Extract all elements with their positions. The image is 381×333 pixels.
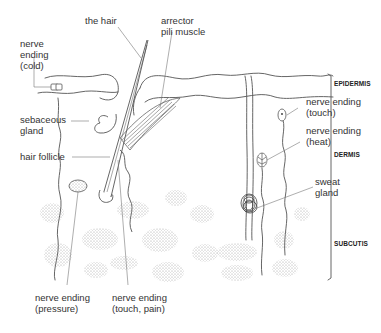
hair-bulb <box>99 190 113 202</box>
sweat-duct-right <box>251 76 253 240</box>
label-touch-line2: (touch) <box>306 108 336 119</box>
label-cold-line2: ending <box>20 50 49 61</box>
label-cold-line3: (cold) <box>20 61 44 72</box>
label-sebaceous-line2: gland <box>20 126 43 137</box>
label-hair-follicle: hair follicle <box>20 152 65 163</box>
layer-label-dermis: DERMIS <box>334 151 360 158</box>
label-touch-pain-line2: (touch, pain) <box>112 304 165 315</box>
label-touch-line1: nerve ending <box>306 97 361 108</box>
leader-pressure <box>67 192 78 285</box>
heat-receptor-shape <box>257 153 267 167</box>
label-sebaceous-line1: sebaceous <box>20 115 66 126</box>
label-sweat-line2: gland <box>315 188 338 199</box>
fat-lobules <box>40 190 310 282</box>
arrector-muscle-outline <box>120 98 180 150</box>
heat-nerve-fiber <box>261 168 263 275</box>
sweat-gland-coil <box>241 194 257 213</box>
touch-pain-nerve-fiber <box>120 150 132 232</box>
epidermis-base-left <box>38 91 118 93</box>
layer-label-subcutis: SUBCUTIS <box>334 240 368 247</box>
label-pressure-line1: nerve ending <box>35 293 90 304</box>
label-heat-line1: nerve ending <box>306 126 361 137</box>
label-hair: the hair <box>85 16 117 27</box>
leader-arrector <box>160 32 172 108</box>
leader-touch <box>287 108 298 115</box>
epidermis-surface-right <box>140 73 333 88</box>
layer-label-epidermis: EPIDERMIS <box>334 80 371 87</box>
sebaceous-gland-shape <box>95 114 117 133</box>
leader-hair <box>118 27 141 58</box>
label-arrector-line2: pili muscle <box>161 27 205 38</box>
epidermis-base-right <box>145 95 333 102</box>
label-cold-line1: nerve <box>20 39 44 50</box>
skin-cross-section-drawing <box>0 0 381 333</box>
leader-heat <box>267 142 300 160</box>
pressure-receptor-shape <box>69 180 87 192</box>
sweat-duct-left <box>245 76 247 240</box>
label-arrector-line1: arrector <box>161 16 194 27</box>
touch-receptor-shape <box>278 109 286 121</box>
label-sweat-line1: sweat <box>315 177 340 188</box>
label-heat-line2: (heat) <box>306 137 331 148</box>
label-touch-pain-line1: nerve ending <box>112 293 167 304</box>
arrector-muscle-fibers <box>122 98 176 148</box>
label-pressure-line2: (pressure) <box>35 304 78 315</box>
